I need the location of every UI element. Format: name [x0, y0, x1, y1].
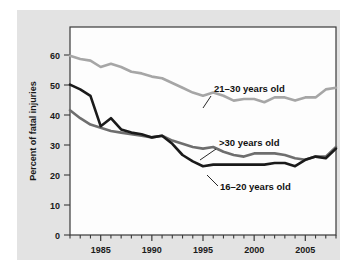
annotation-over-30-label: >30 years old [219, 137, 280, 148]
y-tick-label-50: 50 [50, 81, 60, 91]
y-tick-label-60: 60 [50, 51, 60, 61]
x-tick-label-1995: 1995 [193, 245, 213, 255]
y-tick-label-10: 10 [50, 201, 60, 211]
x-tick-label-1985: 1985 [91, 245, 111, 255]
annotation-21-30-label: 21–30 years old [214, 83, 285, 94]
y-tick-label-0: 0 [55, 231, 60, 241]
x-tick-label-2000: 2000 [244, 245, 264, 255]
y-tick-label-30: 30 [50, 141, 60, 151]
figure-container: 60 50 40 30 20 10 0 Percent of fatal inj… [0, 0, 355, 273]
y-axis-title: Percent of fatal injuries [28, 81, 38, 181]
x-tick-label-2005: 2005 [295, 245, 315, 255]
y-tick-label-40: 40 [50, 111, 60, 121]
x-axis-tick-labels: 19851990199520002005 [91, 245, 316, 255]
y-axis-tick-labels: 60 50 40 30 20 10 0 [50, 51, 60, 241]
line-chart: 60 50 40 30 20 10 0 Percent of fatal inj… [0, 0, 355, 273]
x-tick-label-1990: 1990 [142, 245, 162, 255]
y-axis-ticks [64, 55, 70, 235]
annotation-16-20-label: 16–20 years old [220, 181, 291, 192]
y-tick-label-20: 20 [50, 171, 60, 181]
